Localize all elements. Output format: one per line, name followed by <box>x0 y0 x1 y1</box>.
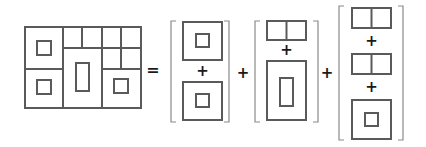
group-2 <box>255 21 318 122</box>
group-2-right-bracket <box>313 21 318 122</box>
plus-sign-between-1-2: + <box>237 66 250 81</box>
plus-sign-group-3-top: + <box>365 34 378 49</box>
group-3-right-bracket <box>398 6 403 140</box>
left-top-inner-square <box>37 41 51 55</box>
group-1-right-bracket <box>224 21 229 122</box>
plus-sign-between-2-3: + <box>321 66 334 81</box>
group-3-bottom-inner-square <box>365 113 378 126</box>
group-3-left-bracket <box>339 6 344 140</box>
group-1-top-inner-square <box>196 34 209 47</box>
plus-sign-group-2: + <box>280 43 293 58</box>
group-1-top-square <box>183 22 222 60</box>
group-2-left-bracket <box>255 21 260 122</box>
group-1-bottom-square <box>183 82 222 120</box>
group-2-tall-inner-rect <box>280 78 293 106</box>
decomposition-diagram: = + + + + + + <box>0 0 426 147</box>
group-3 <box>339 6 403 140</box>
equals-sign: = <box>146 62 159 78</box>
plus-sign-group-3-bottom: + <box>365 80 378 95</box>
group-1-left-bracket <box>171 21 176 122</box>
left-bottom-inner-square <box>37 80 51 94</box>
middle-tall-inner-rect <box>76 63 89 91</box>
composite-plan <box>25 27 141 108</box>
group-1-bottom-inner-square <box>196 94 209 107</box>
diagram-canvas <box>0 0 426 147</box>
right-bottom-inner-square <box>114 79 128 93</box>
group-3-bottom-square <box>352 100 391 139</box>
group-2-tall-rect <box>267 61 306 120</box>
plus-sign-group-1: + <box>196 64 209 79</box>
